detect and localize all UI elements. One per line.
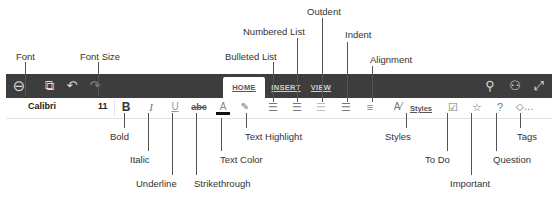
font-size-picker[interactable]: 11 (98, 101, 108, 111)
callout-text-color: Text Color (220, 154, 263, 165)
expand-icon[interactable]: ⤢ (531, 74, 547, 98)
callout-outdent: Outdent (307, 6, 341, 17)
callout-line-strikethrough (196, 113, 197, 175)
bulleted-list-icon[interactable]: ☰ (266, 100, 280, 114)
todo-checkbox-icon[interactable]: ☑ (446, 100, 460, 114)
callout-line-tags (520, 113, 521, 128)
styles-brush-icon[interactable]: A⁄ (391, 100, 405, 114)
callout-italic: Italic (130, 154, 150, 165)
styles-button[interactable]: Styles (408, 102, 434, 116)
callout-underline: Underline (136, 178, 177, 189)
callout-line-to-do (447, 113, 448, 151)
tags-icon[interactable]: ◇… (516, 100, 532, 114)
callout-important: Important (450, 178, 490, 189)
callout-indent: Indent (345, 29, 371, 40)
callout-strikethrough: Strikethrough (194, 178, 251, 189)
callout-styles: Styles (385, 131, 411, 142)
indent-icon[interactable]: ☰ (339, 100, 353, 114)
callout-font-size: Font Size (80, 51, 120, 62)
callout-line-indent (347, 42, 348, 102)
question-icon[interactable]: ? (495, 100, 505, 114)
tab-insert[interactable]: INSERT (265, 77, 307, 98)
font-picker[interactable]: Calibri (28, 101, 56, 111)
callout-bulleted-list: Bulleted List (225, 51, 277, 62)
bold-button[interactable]: B (120, 100, 132, 114)
callout-alignment: Alignment (370, 54, 412, 65)
callout-bold: Bold (110, 131, 129, 142)
text-highlight-icon[interactable]: ✎ (239, 100, 251, 114)
outdent-icon[interactable]: ☰ (314, 100, 328, 114)
callout-line-alignment (372, 66, 373, 102)
callout-line-font (25, 62, 26, 96)
top-toolbar: ⊖ ⧉ ↶ ↷ HOME INSERT VIEW ⚲ ⚇ ⤢ (6, 74, 552, 98)
callout-font: Font (16, 51, 35, 62)
callout-question: Question (493, 154, 531, 165)
italic-button[interactable]: I (146, 100, 156, 114)
callout-tags: Tags (517, 131, 537, 142)
callout-line-question (496, 113, 497, 151)
callout-to-do: To Do (425, 154, 450, 165)
text-color-button[interactable]: A (216, 100, 230, 115)
callout-line-important (471, 113, 472, 175)
callout-numbered-list: Numbered List (243, 26, 305, 37)
callout-line-styles (406, 113, 407, 128)
sync-icon[interactable]: ⧉ (40, 74, 58, 98)
callout-line-bulleted-list (273, 62, 274, 102)
tab-view[interactable]: VIEW (307, 77, 335, 98)
callout-line-bold (124, 113, 125, 128)
undo-icon[interactable]: ↶ (63, 74, 81, 98)
underline-button[interactable]: U (169, 100, 181, 114)
numbered-list-icon[interactable]: ☰ (290, 100, 304, 114)
callout-line-font-size (98, 62, 99, 96)
share-user-icon[interactable]: ⚇ (506, 74, 524, 98)
tab-home[interactable]: HOME (223, 77, 265, 98)
callout-line-outdent (322, 18, 323, 102)
important-star-icon[interactable]: ☆ (470, 100, 484, 114)
redo-icon[interactable]: ↷ (86, 74, 104, 98)
alignment-icon[interactable]: ≡ (363, 100, 377, 114)
callout-line-text-color (221, 118, 222, 151)
strikethrough-button[interactable]: abc (189, 100, 209, 114)
callout-text-highlight: Text Highlight (245, 131, 302, 142)
callout-line-italic (148, 113, 149, 151)
callout-line-numbered-list (297, 38, 298, 102)
search-icon[interactable]: ⚲ (482, 74, 498, 98)
callout-line-underline (172, 113, 173, 175)
callout-line-text-highlight (246, 113, 247, 128)
